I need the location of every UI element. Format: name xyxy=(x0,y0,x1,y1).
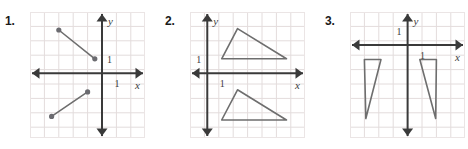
x-unit-tick-label: 1 xyxy=(220,78,225,89)
y-axis-arrow-down xyxy=(402,129,413,137)
coordinate-plane-3: yx11 xyxy=(350,12,465,138)
segment-upper-endpoint-2 xyxy=(92,56,97,61)
y-axis-label: y xyxy=(413,15,419,27)
y-axis-arrow-up xyxy=(97,14,108,22)
problem-number: 1. xyxy=(5,14,15,28)
y-unit-tick-label: 1 xyxy=(107,54,112,65)
x-axis-label: x xyxy=(134,79,140,91)
y-axis-label: y xyxy=(107,15,113,27)
x-unit-tick-label: 1 xyxy=(114,78,119,89)
y-unit-tick-label: 1 xyxy=(196,54,201,65)
segment-upper xyxy=(59,30,95,59)
y-axis-label: y xyxy=(212,15,218,27)
segment-upper-endpoint-1 xyxy=(56,27,61,32)
y-axis-arrow-up xyxy=(402,14,413,22)
y-axis-arrow-down xyxy=(202,129,213,137)
coordinate-plane-1: yx11 xyxy=(30,12,145,138)
coordinate-plane-2: yx11 xyxy=(190,12,305,138)
problem-number: 3. xyxy=(325,14,335,28)
grid-lines xyxy=(30,12,145,138)
x-axis-label: x xyxy=(454,51,460,63)
worksheet-page: 1.yx112.yx113.yx11 xyxy=(0,0,468,149)
x-axis-label: x xyxy=(294,79,300,91)
y-axis-arrow-down xyxy=(97,129,108,137)
problem-number: 2. xyxy=(165,14,175,28)
y-unit-tick-label: 1 xyxy=(397,26,402,37)
segment-lower-endpoint-2 xyxy=(85,89,90,94)
axes xyxy=(352,14,463,136)
y-axis-arrow-up xyxy=(202,14,213,22)
segment-lower-endpoint-1 xyxy=(49,114,54,119)
